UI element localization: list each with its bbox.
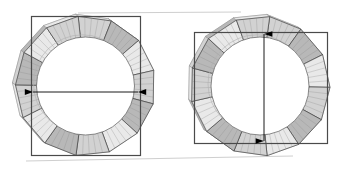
- figure-canvas: [0, 0, 344, 177]
- inner-bore-circle: [211, 37, 309, 135]
- inner-bore-circle: [37, 37, 135, 135]
- ring-segment-face: [133, 70, 154, 103]
- right-ring-view: [189, 14, 330, 155]
- ring-views-group: [13, 14, 330, 155]
- left-ring-view: [13, 14, 154, 155]
- bottom-leader-line: [26, 156, 293, 161]
- top-leader-line: [78, 12, 241, 13]
- ring-views-diagram: [0, 0, 344, 177]
